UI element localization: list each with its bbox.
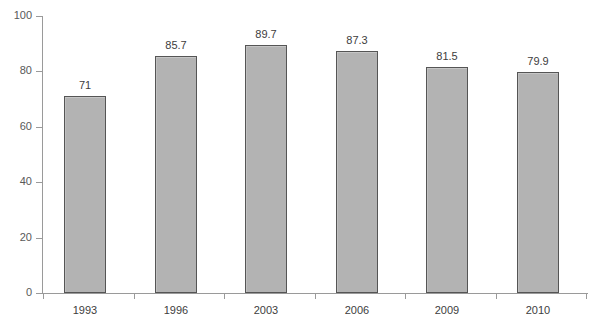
y-axis-tick-label: 60 bbox=[0, 121, 32, 132]
y-axis-tick bbox=[36, 16, 43, 17]
y-axis-tick-label: 20 bbox=[0, 232, 32, 243]
bar bbox=[64, 96, 106, 293]
x-axis-tick bbox=[224, 293, 225, 299]
bar bbox=[245, 45, 287, 293]
x-axis-category-label: 2003 bbox=[226, 305, 306, 316]
bar-chart: 020406080100 7185.789.787.381.579.9 1993… bbox=[0, 0, 600, 331]
x-axis-tick bbox=[496, 293, 497, 299]
bar bbox=[155, 56, 197, 293]
x-axis-category-label: 2010 bbox=[498, 305, 578, 316]
bar-value-label: 89.7 bbox=[226, 29, 306, 40]
y-axis-tick-label: 0 bbox=[0, 287, 32, 298]
x-axis-category-label: 1993 bbox=[45, 305, 125, 316]
x-axis-tick bbox=[405, 293, 406, 299]
x-axis-tick bbox=[43, 293, 44, 299]
y-axis-tick bbox=[36, 127, 43, 128]
y-axis-line bbox=[42, 16, 43, 294]
bar bbox=[336, 51, 378, 293]
y-axis-tick-label: 40 bbox=[0, 176, 32, 187]
x-axis-tick bbox=[134, 293, 135, 299]
bar-value-label: 85.7 bbox=[136, 40, 216, 51]
bar bbox=[517, 72, 559, 293]
x-axis-category-label: 2009 bbox=[407, 305, 487, 316]
x-axis-category-label: 1996 bbox=[136, 305, 216, 316]
y-axis-tick-label: 100 bbox=[0, 10, 32, 21]
y-axis-tick bbox=[36, 238, 43, 239]
y-axis-tick-label: 80 bbox=[0, 65, 32, 76]
x-axis-tick bbox=[586, 293, 587, 299]
bar-value-label: 71 bbox=[45, 80, 125, 91]
bar bbox=[426, 67, 468, 293]
bar-value-label: 81.5 bbox=[407, 51, 487, 62]
y-axis-tick bbox=[36, 182, 43, 183]
bar-value-label: 79.9 bbox=[498, 56, 578, 67]
x-axis-tick bbox=[315, 293, 316, 299]
x-axis-category-label: 2006 bbox=[317, 305, 397, 316]
y-axis-tick bbox=[36, 293, 43, 294]
bar-value-label: 87.3 bbox=[317, 35, 397, 46]
y-axis-tick bbox=[36, 71, 43, 72]
